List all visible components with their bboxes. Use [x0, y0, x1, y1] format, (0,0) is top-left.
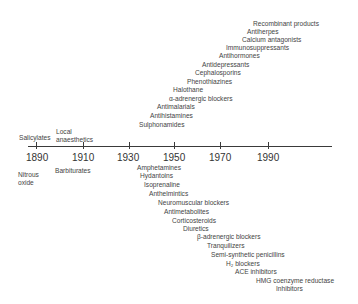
timeline-axis	[28, 146, 332, 147]
label-drug-class: Isoprenaline	[144, 181, 180, 189]
tick-1970	[220, 142, 221, 149]
year-label: 1930	[117, 152, 139, 163]
label-salicylates: Salicylates	[19, 134, 51, 142]
label-drug-class: Hydantoins	[140, 172, 173, 180]
label-drug-class: Tranquilizers	[207, 242, 245, 250]
label-drug-class: Calcium antagonists	[242, 36, 301, 44]
tick-1890	[36, 142, 37, 149]
label-drug-class: Corticosteroids	[172, 217, 216, 225]
label-drug-class: Anthelmintics	[149, 190, 188, 198]
label-drug-class: H₂ blockers	[226, 260, 260, 268]
tick-1950	[174, 142, 175, 149]
label-drug-class: HMG coenzyme reductase	[256, 277, 334, 285]
label-drug-class: Antidepressants	[202, 61, 249, 69]
label-drug-class: Antimalarials	[157, 103, 195, 111]
label-nitrous-oxide: oxide	[18, 179, 34, 187]
year-label: 1970	[209, 152, 231, 163]
label-drug-class: α-adrenergic blockers	[169, 95, 233, 103]
label-drug-class: Antimetabolites	[164, 208, 209, 216]
year-label: 1890	[26, 152, 48, 163]
label-nitrous-oxide: Nitrous	[18, 171, 39, 179]
year-label: 1910	[72, 152, 94, 163]
label-local-anaesthetics: Local	[56, 128, 72, 136]
label-drug-class: β-adrenergic blockers	[197, 233, 261, 241]
year-label: 1950	[163, 152, 185, 163]
label-drug-class: Sulphonamides	[139, 121, 184, 129]
label-drug-class: Antihistamines	[150, 112, 193, 120]
label-drug-class: Diuretics	[183, 225, 209, 233]
label-drug-class: Phenothiazines	[187, 78, 232, 86]
label-drug-class: Recombinant products	[253, 20, 319, 28]
tick-1990	[268, 142, 269, 149]
tick-1930	[129, 142, 130, 149]
label-local-anaesthetics: anaesthetics	[56, 136, 93, 144]
year-label: 1990	[257, 152, 279, 163]
label-drug-class: Inhibitors	[276, 285, 303, 293]
label-drug-class: Cephalosporins	[195, 69, 241, 77]
label-drug-class: Antihormones	[219, 52, 260, 60]
label-drug-class: Semi-synthetic penicillins	[211, 251, 285, 259]
label-drug-class: Immunosuppressants	[226, 44, 289, 52]
label-drug-class: Halothane	[173, 86, 203, 94]
label-barbiturates: Barbiturates	[55, 167, 91, 175]
label-drug-class: Antiherpes	[247, 28, 279, 36]
label-drug-class: Neuromuscular blockers	[158, 199, 229, 207]
label-drug-class: ACE inhibitors	[235, 268, 277, 276]
label-drug-class: Amphetamines	[137, 164, 181, 172]
